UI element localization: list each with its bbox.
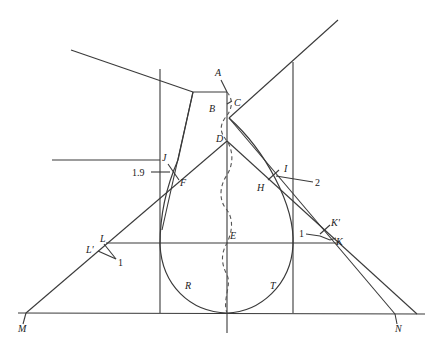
label-b: B [209,103,215,114]
k-leader-2 [320,236,330,240]
label-i: I [283,163,288,174]
label-j: J [162,152,167,163]
diagonal-d-m [26,141,227,313]
label-k-prime: K' [330,217,341,228]
a-leader [221,80,227,92]
sleeve-cap-dashed-curve [221,92,232,313]
diagonal-b-n [229,118,395,314]
label-r: R [184,280,191,291]
label-e: E [229,230,236,241]
measure-2: 2 [315,177,320,188]
diagonal-d-right [227,141,417,314]
leader-2 [276,176,313,182]
k-leader-1 [306,234,320,236]
label-a: A [214,67,222,78]
label-m: M [17,323,27,334]
diagram-canvas: A B C D E F H I J K K' L L' M N R T 1.9 … [0,0,440,350]
label-f: F [179,177,187,188]
label-l-prime: L' [85,244,95,255]
label-n: N [394,323,403,334]
label-d: D [215,133,224,144]
measure-k-1: 1 [299,228,304,239]
measure-1-9: 1.9 [132,167,145,178]
construction-drawing: A B C D E F H I J K K' L L' M N R T 1.9 … [0,0,440,350]
upper-right-diagonal [229,20,338,118]
label-l: L [99,233,106,244]
measure-l-1: 1 [118,257,123,268]
shoulder-line [71,50,193,92]
label-k: K [335,236,344,247]
label-c: C [234,97,241,108]
label-h: H [256,182,265,193]
